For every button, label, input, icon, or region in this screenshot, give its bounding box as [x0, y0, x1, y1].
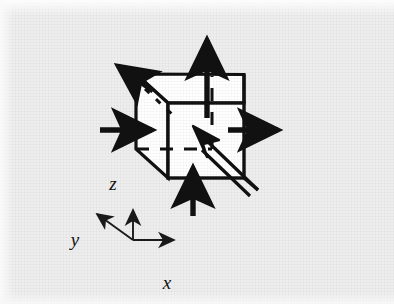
stress-cube-figure: x y z — [0, 0, 394, 304]
x-axis-label: x — [162, 272, 172, 293]
y-axis-label: y — [69, 229, 80, 250]
z-axis-label: z — [108, 173, 117, 194]
stress-cube-diagram: x y z — [0, 0, 394, 304]
